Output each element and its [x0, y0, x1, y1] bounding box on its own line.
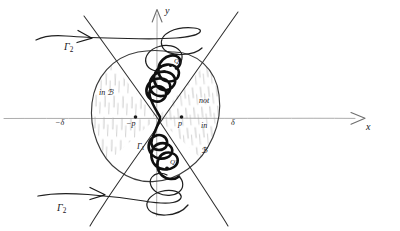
region-label-in-d: in ℬ: [99, 89, 113, 97]
gamma-2-top-subscript: 2: [70, 46, 74, 54]
x-axis-label: x: [366, 122, 370, 132]
region-label-not-in-d-line2: in: [199, 122, 209, 130]
point-label-p: p: [178, 120, 182, 128]
point-label-minus-p: −p: [126, 120, 135, 128]
region-label-not-in-d: not in ℬ: [199, 80, 209, 164]
gamma-2-bottom-subscript: 2: [63, 207, 67, 215]
point-label-Q: Q: [174, 58, 179, 65]
diagram-canvas: x y −δ δ −p p Q Q′ in ℬ not in ℬ Γ2 Γ2 Γ…: [0, 0, 400, 231]
tick-label-minus-delta: −δ: [55, 119, 64, 127]
curve-gamma-2-top: [36, 28, 202, 55]
point-label-Q-prime: Q′: [170, 159, 177, 166]
curve-label-gamma-1: Γ1: [137, 143, 144, 152]
region-label-not-in-d-line3: ℬ: [199, 147, 209, 155]
curve-label-gamma-2-bottom: Γ2: [57, 203, 66, 215]
region-label-not-in-d-line1: not: [199, 97, 209, 105]
tick-label-delta: δ: [231, 119, 235, 127]
curve-label-gamma-2-top: Γ2: [64, 42, 73, 54]
y-axis-label: y: [165, 6, 169, 16]
gamma-2-bottom-arrowhead: [90, 188, 105, 200]
gamma-1-subscript: 1: [142, 145, 145, 151]
